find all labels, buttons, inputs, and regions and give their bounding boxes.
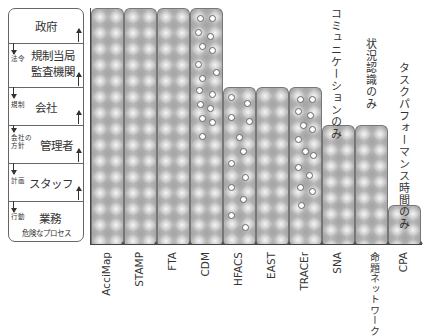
x-tick xyxy=(320,241,324,244)
circle-marker xyxy=(228,94,235,101)
circle-marker xyxy=(195,29,202,36)
circle-marker xyxy=(207,105,214,112)
level-management: 管理者 会社の 方針 xyxy=(9,125,83,164)
circle-marker xyxy=(199,43,206,50)
circle-marker xyxy=(228,184,235,191)
level-title: 監査機関 xyxy=(23,63,83,79)
circle-marker xyxy=(209,47,216,54)
down-label: 方針 xyxy=(11,143,25,151)
circle-marker xyxy=(302,148,309,155)
circle-marker xyxy=(228,212,235,219)
x-label-fta: FTA xyxy=(166,252,178,271)
circle-marker xyxy=(246,118,253,125)
x-label-cdm: CDM xyxy=(199,252,211,276)
circle-marker xyxy=(306,172,313,179)
x-tick xyxy=(188,241,192,244)
circle-marker xyxy=(228,114,235,121)
arrow-down-icon xyxy=(13,163,14,174)
x-tick xyxy=(419,241,423,244)
x-label-hfacs: HFACS xyxy=(232,252,244,286)
level-title: 規制当局 xyxy=(23,47,83,63)
x-label-east: EAST xyxy=(265,252,277,279)
circle-marker xyxy=(240,148,247,155)
x-tick xyxy=(386,241,390,244)
x-label-stamp: STAMP xyxy=(133,252,145,287)
arrow-up-icon xyxy=(78,149,79,162)
x-label-sna: SNA xyxy=(331,252,343,274)
circle-marker xyxy=(209,91,216,98)
circle-marker xyxy=(242,174,249,181)
x-tick xyxy=(154,241,158,244)
level-title: スタッフ xyxy=(19,175,83,191)
circle-marker xyxy=(207,33,214,40)
circle-marker xyxy=(195,61,202,68)
circle-marker xyxy=(297,96,304,103)
circle-marker xyxy=(309,96,316,103)
annotation-situation-awareness-only: 状況認識のみ xyxy=(362,38,378,110)
circle-marker xyxy=(199,75,206,82)
x-tick xyxy=(121,241,125,244)
bar-east xyxy=(256,87,289,244)
level-work: 業務 危険なプロセス 行動 xyxy=(9,201,83,244)
level-staff: スタッフ 計画 xyxy=(9,163,83,202)
circle-marker xyxy=(196,87,203,94)
sociotechnical-hierarchy-panel: 政府 規制当局 監査機関 法令 会社 規制 管理者 会社の 方針 スタッフ 計画… xyxy=(8,8,84,242)
bar-accimap xyxy=(91,8,124,244)
down-label: 法令 xyxy=(11,56,25,64)
circle-marker xyxy=(300,122,307,129)
circle-marker xyxy=(240,196,247,203)
circle-marker xyxy=(309,188,316,195)
circle-marker xyxy=(228,160,235,167)
bar-fta xyxy=(157,8,190,244)
circle-marker xyxy=(295,136,302,143)
x-tick xyxy=(254,241,258,244)
annotation-communication-only: コミュニケーションのみ xyxy=(327,8,343,140)
x-tick xyxy=(287,241,291,244)
circle-marker xyxy=(295,108,302,115)
level-company: 会社 規制 xyxy=(9,87,83,126)
circle-marker xyxy=(197,101,204,108)
circle-marker xyxy=(310,152,317,159)
circle-marker xyxy=(307,112,314,119)
down-label: 規制 xyxy=(11,102,25,110)
x-label-tracer: TRACEr xyxy=(298,252,310,291)
x-label-accimap: AcciMap xyxy=(100,252,112,296)
bar-propositional-network xyxy=(355,125,388,244)
circle-marker xyxy=(298,202,305,209)
x-label-propositional-network: 命題ネットワーク xyxy=(366,252,381,336)
circle-marker xyxy=(209,15,216,22)
level-subtitle: 危険なプロセス xyxy=(9,227,83,238)
down-label: 行動 xyxy=(11,214,25,222)
circle-marker xyxy=(309,126,316,133)
bar-hfacs xyxy=(223,87,256,244)
circle-marker xyxy=(297,184,304,191)
arrow-up-icon xyxy=(78,29,79,42)
level-government: 政府 xyxy=(9,9,83,43)
x-tick xyxy=(221,241,225,244)
bar-stamp xyxy=(124,8,157,244)
annotation-task-time-only: タスクパフォーマンス時間のみ xyxy=(395,62,411,230)
circle-marker xyxy=(199,115,206,122)
circle-marker xyxy=(209,119,216,126)
level-title: 政府 xyxy=(9,18,83,34)
arrow-down-icon xyxy=(13,125,14,132)
arrow-up-icon xyxy=(78,73,79,86)
x-axis xyxy=(90,244,422,245)
arrow-up-icon xyxy=(78,187,79,200)
arrow-down-icon xyxy=(13,87,14,98)
circle-marker xyxy=(213,69,220,76)
circle-marker xyxy=(242,224,249,231)
down-label: 計画 xyxy=(11,178,25,186)
arrow-down-icon xyxy=(13,43,14,54)
level-regulators: 規制当局 監査機関 法令 xyxy=(9,43,83,88)
circle-marker xyxy=(244,100,251,107)
circle-marker xyxy=(295,164,302,171)
bar-cdm xyxy=(190,8,223,244)
arrow-up-icon xyxy=(78,111,79,124)
bar-tracer xyxy=(289,87,322,244)
circle-marker xyxy=(236,134,243,141)
circle-marker xyxy=(199,133,206,140)
circle-marker xyxy=(197,15,204,22)
level-title: 業務 xyxy=(17,210,83,226)
arrow-down-icon xyxy=(13,201,14,212)
